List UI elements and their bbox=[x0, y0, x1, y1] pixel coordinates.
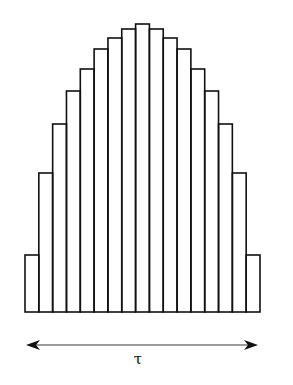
histogram-bar bbox=[80, 69, 94, 312]
histogram-bar bbox=[108, 38, 122, 312]
histogram-bar bbox=[246, 255, 260, 312]
histogram-bar bbox=[163, 38, 177, 312]
histogram-bar bbox=[66, 91, 80, 312]
histogram-bar bbox=[39, 173, 53, 312]
histogram-bar bbox=[53, 124, 67, 312]
histogram-bar bbox=[136, 24, 150, 312]
histogram-bar bbox=[25, 255, 39, 312]
tau-label: τ bbox=[0, 351, 276, 367]
histogram-bars bbox=[25, 24, 260, 312]
histogram-bar bbox=[177, 49, 191, 312]
histogram-bar bbox=[122, 29, 136, 312]
histogram-bar bbox=[149, 29, 163, 312]
histogram-bar bbox=[232, 173, 246, 312]
histogram-bar bbox=[205, 91, 219, 312]
histogram-bar bbox=[219, 124, 233, 312]
width-arrow bbox=[26, 340, 258, 350]
histogram-bar bbox=[191, 69, 205, 312]
histogram-bar bbox=[94, 49, 108, 312]
histogram-diagram bbox=[0, 0, 293, 385]
